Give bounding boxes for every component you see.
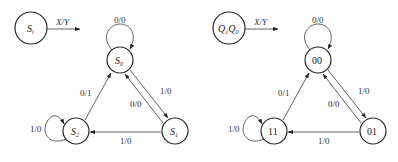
state-label-00: 00 — [312, 55, 322, 66]
transition-label-11-00: 0/1 — [278, 88, 290, 98]
transition-label-s1-s0: 0/0 — [130, 99, 142, 109]
state-node-s1 — [162, 118, 188, 144]
state-label-01: 01 — [367, 126, 377, 137]
state-node-s0 — [107, 47, 133, 73]
transition-label-s2-s0: 0/1 — [80, 88, 92, 98]
transition-label-s0-s1: 1/0 — [160, 86, 172, 96]
legend: Q1Q0 X/Y — [213, 12, 278, 44]
transition-label-s2-s2: 1/0 — [30, 124, 42, 134]
legend-transition-label: X/Y — [253, 17, 268, 27]
transition-label-01-00: 0/0 — [328, 99, 340, 109]
legend-transition-label: X/Y — [55, 17, 70, 27]
transition-label-00-00: 0/0 — [312, 15, 324, 25]
legend: Si X/Y — [15, 12, 80, 44]
encoded-state-diagram: Q1Q0 X/Y 0/0 1/0 0/0 1/0 0/1 1/0 00 01 1… — [213, 12, 386, 146]
transition-label-s0-s0: 0/0 — [114, 15, 126, 25]
legend-state-label: Q1Q0 — [218, 23, 238, 35]
self-loop-00 — [305, 24, 332, 50]
self-loop-s0 — [107, 24, 134, 50]
symbolic-state-diagram: Si X/Y 0/0 1/0 0/0 1/0 0/1 1/0 S0 S1 S2 — [15, 12, 188, 146]
transition-label-00-01: 1/0 — [358, 86, 370, 96]
transition-label-01-11: 1/0 — [318, 136, 330, 146]
state-label-11: 11 — [268, 126, 278, 137]
transition-label-s1-s2: 1/0 — [120, 136, 132, 146]
state-node-s2 — [63, 118, 89, 144]
state-diagrams-canvas: Si X/Y 0/0 1/0 0/0 1/0 0/1 1/0 S0 S1 S2 — [0, 0, 398, 162]
transition-label-11-11: 1/0 — [228, 124, 240, 134]
